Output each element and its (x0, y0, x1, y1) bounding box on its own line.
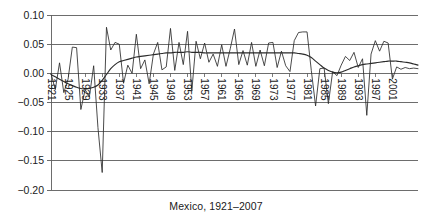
y-tick-label--0.10: −0.10 (17, 125, 44, 137)
x-tick-label-1953: 1953 (182, 78, 193, 101)
x-tick-label-1929: 1929 (80, 78, 91, 101)
y-tick-label--0.15: −0.15 (17, 154, 44, 166)
x-tick-label-1945: 1945 (148, 78, 159, 101)
x-tick-label-1997: 1997 (370, 78, 381, 101)
y-tick-label--0.05: −0.05 (17, 96, 44, 108)
x-tick-label-1989: 1989 (336, 78, 347, 101)
x-tick-marks (51, 73, 392, 76)
y-tick-label-0.05: 0.05 (24, 38, 45, 50)
chart-title: Mexico, 1921–2007 (0, 200, 432, 212)
y-tick-label-0.10: 0.10 (24, 9, 45, 21)
x-axis-tick-labels: 1921192519291933193719411945194919531957… (46, 78, 398, 101)
x-tick-label-1921: 1921 (46, 78, 57, 101)
x-tick-label-1957: 1957 (199, 78, 210, 101)
x-tick-label-1969: 1969 (250, 78, 261, 101)
x-tick-label-1941: 1941 (131, 78, 142, 101)
x-tick-label-1961: 1961 (216, 78, 227, 101)
y-tick-label-0.00: 0.00 (24, 67, 45, 79)
x-tick-label-1949: 1949 (165, 78, 176, 101)
x-tick-label-1937: 1937 (114, 78, 125, 101)
x-tick-label-1933: 1933 (97, 78, 108, 101)
line-chart: 0.100.050.00−0.05−0.10−0.15−0.20 1921192… (0, 0, 432, 222)
x-tick-label-1965: 1965 (233, 78, 244, 101)
y-tick-marks (47, 15, 51, 190)
chart-figure: 0.100.050.00−0.05−0.10−0.15−0.20 1921192… (0, 0, 432, 222)
x-tick-label-1973: 1973 (268, 78, 279, 101)
x-tick-label-1981: 1981 (302, 78, 313, 101)
x-tick-label-2001: 2001 (387, 78, 398, 101)
x-tick-label-1977: 1977 (285, 78, 296, 101)
y-axis-tick-labels: 0.100.050.00−0.05−0.10−0.15−0.20 (17, 9, 44, 196)
x-tick-label-1985: 1985 (319, 78, 330, 101)
x-tick-label-1993: 1993 (353, 78, 364, 101)
x-tick-label-1925: 1925 (63, 78, 74, 101)
y-tick-label--0.20: −0.20 (17, 184, 44, 196)
